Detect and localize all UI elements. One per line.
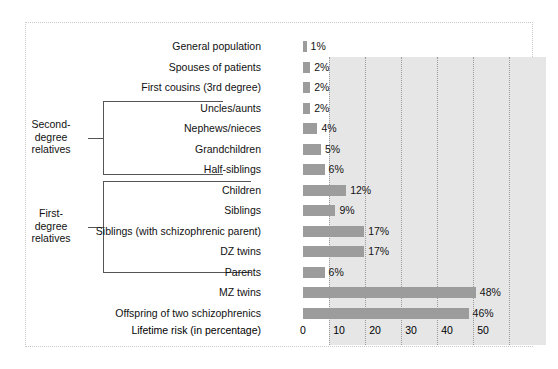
bar-value-label: 12%: [350, 183, 371, 197]
bar: [303, 308, 469, 319]
bar-category-label: Siblings (with schizophrenic parent): [96, 224, 261, 238]
bar: [303, 144, 321, 155]
bar-value-label: 17%: [368, 224, 389, 238]
bar: [303, 41, 307, 52]
bar-category-label: MZ twins: [219, 285, 261, 299]
bar-row: Parents6%: [0, 263, 558, 283]
x-tick-label: 0: [291, 323, 315, 337]
bar-value-label: 46%: [473, 306, 494, 320]
bar-value-label: 6%: [329, 265, 344, 279]
bar-row: First cousins (3rd degree)2%: [0, 78, 558, 98]
bar-row: Siblings (with schizophrenic parent)17%: [0, 222, 558, 242]
x-tick-label: 40: [435, 323, 459, 337]
bar-value-label: 6%: [329, 162, 344, 176]
bar-row: Half-siblings6%: [0, 160, 558, 180]
bar: [303, 185, 346, 196]
bar-row: Nephews/nieces4%: [0, 119, 558, 139]
bar-value-label: 9%: [339, 203, 354, 217]
bar-category-label: Nephews/nieces: [184, 121, 261, 135]
bar-category-label: Children: [222, 183, 261, 197]
bar-category-label: DZ twins: [220, 244, 261, 258]
x-axis: Lifetime risk (in percentage) 0102030405…: [0, 322, 558, 340]
bar-category-label: Siblings: [224, 203, 261, 217]
bar-value-label: 48%: [480, 285, 501, 299]
bar: [303, 205, 335, 216]
bar: [303, 226, 364, 237]
bar-row: Offspring of two schizophrenics46%: [0, 304, 558, 324]
bar-category-label: Half-siblings: [204, 162, 261, 176]
bar-row: Children12%: [0, 181, 558, 201]
bar-value-label: 2%: [314, 80, 329, 94]
bar-category-label: Grandchildren: [195, 142, 261, 156]
bar-category-label: Offspring of two schizophrenics: [115, 306, 261, 320]
bar-category-label: Uncles/aunts: [200, 101, 261, 115]
bar-value-label: 4%: [321, 121, 336, 135]
bar-value-label: 1%: [311, 39, 326, 53]
bar-row: DZ twins17%: [0, 242, 558, 262]
bar: [303, 287, 476, 298]
bar: [303, 267, 325, 278]
bar-row: Uncles/aunts2%: [0, 99, 558, 119]
bar-category-label: General population: [172, 39, 261, 53]
bar-category-label: First cousins (3rd degree): [141, 80, 261, 94]
bar-value-label: 2%: [314, 101, 329, 115]
bar-row: General population1%: [0, 37, 558, 57]
bar: [303, 246, 364, 257]
bar: [303, 62, 310, 73]
x-tick-label: 10: [327, 323, 351, 337]
bar-category-label: Spouses of patients: [169, 60, 261, 74]
bar: [303, 103, 310, 114]
bar: [303, 123, 317, 134]
bar-row: Siblings9%: [0, 201, 558, 221]
bar-category-label: Parents: [225, 265, 261, 279]
bar: [303, 82, 310, 93]
x-tick-label: 20: [363, 323, 387, 337]
bar-row: Spouses of patients2%: [0, 58, 558, 78]
bar-value-label: 5%: [325, 142, 340, 156]
bar-row: Grandchildren5%: [0, 140, 558, 160]
x-axis-title: Lifetime risk (in percentage): [131, 323, 261, 337]
bar: [303, 164, 325, 175]
bar-row: MZ twins48%: [0, 283, 558, 303]
x-tick-label: 50: [471, 323, 495, 337]
bar-value-label: 2%: [314, 60, 329, 74]
bar-value-label: 17%: [368, 244, 389, 258]
x-tick-label: 30: [399, 323, 423, 337]
